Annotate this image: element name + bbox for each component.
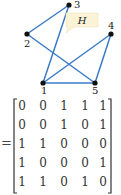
matrix-cell: 1 (79, 175, 91, 189)
node-3 (66, 2, 71, 7)
matrix-cell: 1 (58, 99, 70, 113)
adjacency-matrix: = 0 0 1 1 1 0 0 1 0 1 1 1 0 0 0 1 0 0 0 … (0, 95, 121, 195)
matrix-cell: 0 (79, 118, 91, 132)
matrix-cell: 1 (58, 118, 70, 132)
node-2 (24, 31, 29, 36)
matrix-cell: 0 (16, 99, 28, 113)
matrix-cell: 0 (97, 137, 109, 151)
matrix-cell: 0 (79, 156, 91, 170)
edge-4-5 (95, 34, 111, 83)
matrix-cell: 0 (58, 175, 70, 189)
node-label-3: 3 (74, 0, 80, 10)
node-4 (108, 31, 113, 36)
matrix-cell: 0 (97, 175, 109, 189)
matrix-cell: 1 (79, 99, 91, 113)
matrix-cell: 0 (58, 137, 70, 151)
matrix-cell: 1 (37, 137, 49, 151)
matrix-cell: 1 (16, 156, 28, 170)
graph-name: H (77, 15, 87, 26)
matrix-cell: 1 (16, 175, 28, 189)
node-label-4: 4 (108, 20, 114, 31)
matrix-cell: 1 (97, 156, 109, 170)
matrix-cell: 0 (16, 118, 28, 132)
edge-1-4 (43, 34, 111, 83)
matrix-cell: 0 (37, 156, 49, 170)
graph-label-callout: H (66, 13, 98, 33)
edge-2-5 (27, 34, 95, 83)
node-label-5: 5 (92, 85, 98, 95)
matrix-cell: 1 (97, 118, 109, 132)
graph-diagram: H 1 2 3 4 5 (0, 0, 121, 95)
matrix-cell: 1 (37, 175, 49, 189)
matrix-cell: 1 (97, 99, 109, 113)
matrix-cell: 0 (58, 156, 70, 170)
edge-2-3 (27, 5, 69, 34)
node-label-2: 2 (24, 38, 30, 49)
matrix-cell: 0 (37, 99, 49, 113)
edge-1-3 (43, 5, 69, 83)
matrix-cell: 1 (16, 137, 28, 151)
matrix-cell: 0 (79, 137, 91, 151)
matrix-cell: 0 (37, 118, 49, 132)
node-label-1: 1 (41, 85, 47, 95)
